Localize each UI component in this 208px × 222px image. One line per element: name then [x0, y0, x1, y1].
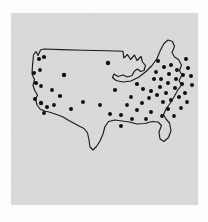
- map-dot: [42, 55, 46, 59]
- map-dot: [189, 74, 193, 78]
- us-outline-path: [32, 40, 182, 150]
- map-dot: [177, 95, 181, 99]
- map-dot: [162, 65, 166, 69]
- figure-container: [0, 0, 208, 222]
- map-dot: [39, 101, 43, 105]
- map-dot: [119, 113, 123, 117]
- map-dot: [156, 59, 160, 63]
- map-dot: [144, 117, 148, 121]
- map-dot: [190, 83, 194, 87]
- us-map-svg: [11, 13, 198, 205]
- map-dot: [45, 105, 49, 109]
- map-dot: [166, 107, 170, 111]
- map-dot: [130, 117, 134, 121]
- map-dot: [42, 111, 46, 115]
- map-dot: [129, 95, 133, 99]
- map-dot: [149, 89, 153, 93]
- map-dot: [175, 68, 179, 72]
- map-dot: [181, 73, 185, 77]
- map-dot: [141, 87, 145, 91]
- map-dot: [173, 86, 177, 90]
- scanned-paper-panel: [11, 13, 198, 205]
- map-dot: [164, 91, 168, 95]
- map-dot: [184, 57, 188, 61]
- map-dot: [34, 81, 38, 85]
- map-dot: [166, 81, 170, 85]
- map-dot: [147, 96, 151, 100]
- map-dot: [135, 108, 139, 112]
- map-dot: [38, 68, 42, 72]
- map-dot: [98, 103, 102, 107]
- map-dot: [179, 106, 183, 110]
- map-dot: [33, 97, 37, 101]
- map-dot: [159, 77, 163, 81]
- map-dot: [172, 114, 176, 118]
- dot-layer: [32, 55, 194, 128]
- map-dot: [155, 93, 159, 97]
- map-dot: [69, 107, 73, 111]
- map-dot: [37, 57, 41, 61]
- map-dot: [169, 98, 173, 102]
- map-dot: [39, 84, 43, 88]
- map-dot: [108, 112, 112, 116]
- map-dot: [58, 94, 62, 98]
- map-dot: [119, 124, 123, 128]
- map-dot: [154, 70, 158, 74]
- map-dot: [169, 63, 173, 67]
- map-dot: [167, 72, 171, 76]
- map-dot: [113, 88, 117, 92]
- map-dot: [174, 77, 178, 81]
- map-dot: [186, 66, 190, 70]
- map-dot: [158, 85, 162, 89]
- map-dot: [50, 88, 54, 92]
- map-dot: [160, 114, 164, 118]
- map-dot: [149, 110, 153, 114]
- map-dot: [32, 71, 36, 75]
- map-dot: [62, 73, 66, 77]
- map-dot: [140, 101, 144, 105]
- map-dot: [52, 103, 56, 107]
- map-dot: [185, 100, 189, 104]
- map-dot: [180, 82, 184, 86]
- map-dot: [161, 100, 165, 104]
- map-dot: [125, 103, 129, 107]
- map-dot: [106, 61, 110, 65]
- map-dot: [81, 100, 85, 104]
- map-dot: [135, 82, 139, 86]
- map-dot: [183, 91, 187, 95]
- map-dot: [152, 77, 156, 81]
